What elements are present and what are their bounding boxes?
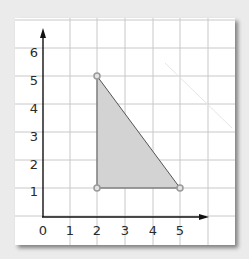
vertex-5-1 xyxy=(177,185,183,191)
y-label-6: 6 xyxy=(30,45,38,60)
y-label-2: 2 xyxy=(30,157,38,172)
diagram-stage: 6 5 4 3 2 1 0 1 2 3 4 5 xyxy=(0,0,249,259)
y-axis-labels: 6 5 4 3 2 1 xyxy=(30,45,38,199)
vertex-2-1 xyxy=(94,185,100,191)
x-label-2: 2 xyxy=(93,223,101,238)
y-label-3: 3 xyxy=(30,129,38,144)
x-label-1: 1 xyxy=(66,223,74,238)
y-label-4: 4 xyxy=(30,101,38,116)
y-label-5: 5 xyxy=(30,73,38,88)
origin-label: 0 xyxy=(39,223,47,238)
y-axis-arrow-icon xyxy=(40,28,46,38)
x-label-4: 4 xyxy=(149,223,157,238)
scan-artifact xyxy=(165,63,232,128)
y-label-1: 1 xyxy=(30,184,38,199)
coordinate-grid: 6 5 4 3 2 1 0 1 2 3 4 5 xyxy=(0,0,249,259)
x-label-3: 3 xyxy=(121,223,129,238)
x-axis-labels: 0 1 2 3 4 5 xyxy=(39,223,184,238)
y-axis xyxy=(40,28,46,217)
x-label-5: 5 xyxy=(176,223,184,238)
vertex-2-5 xyxy=(94,73,100,79)
